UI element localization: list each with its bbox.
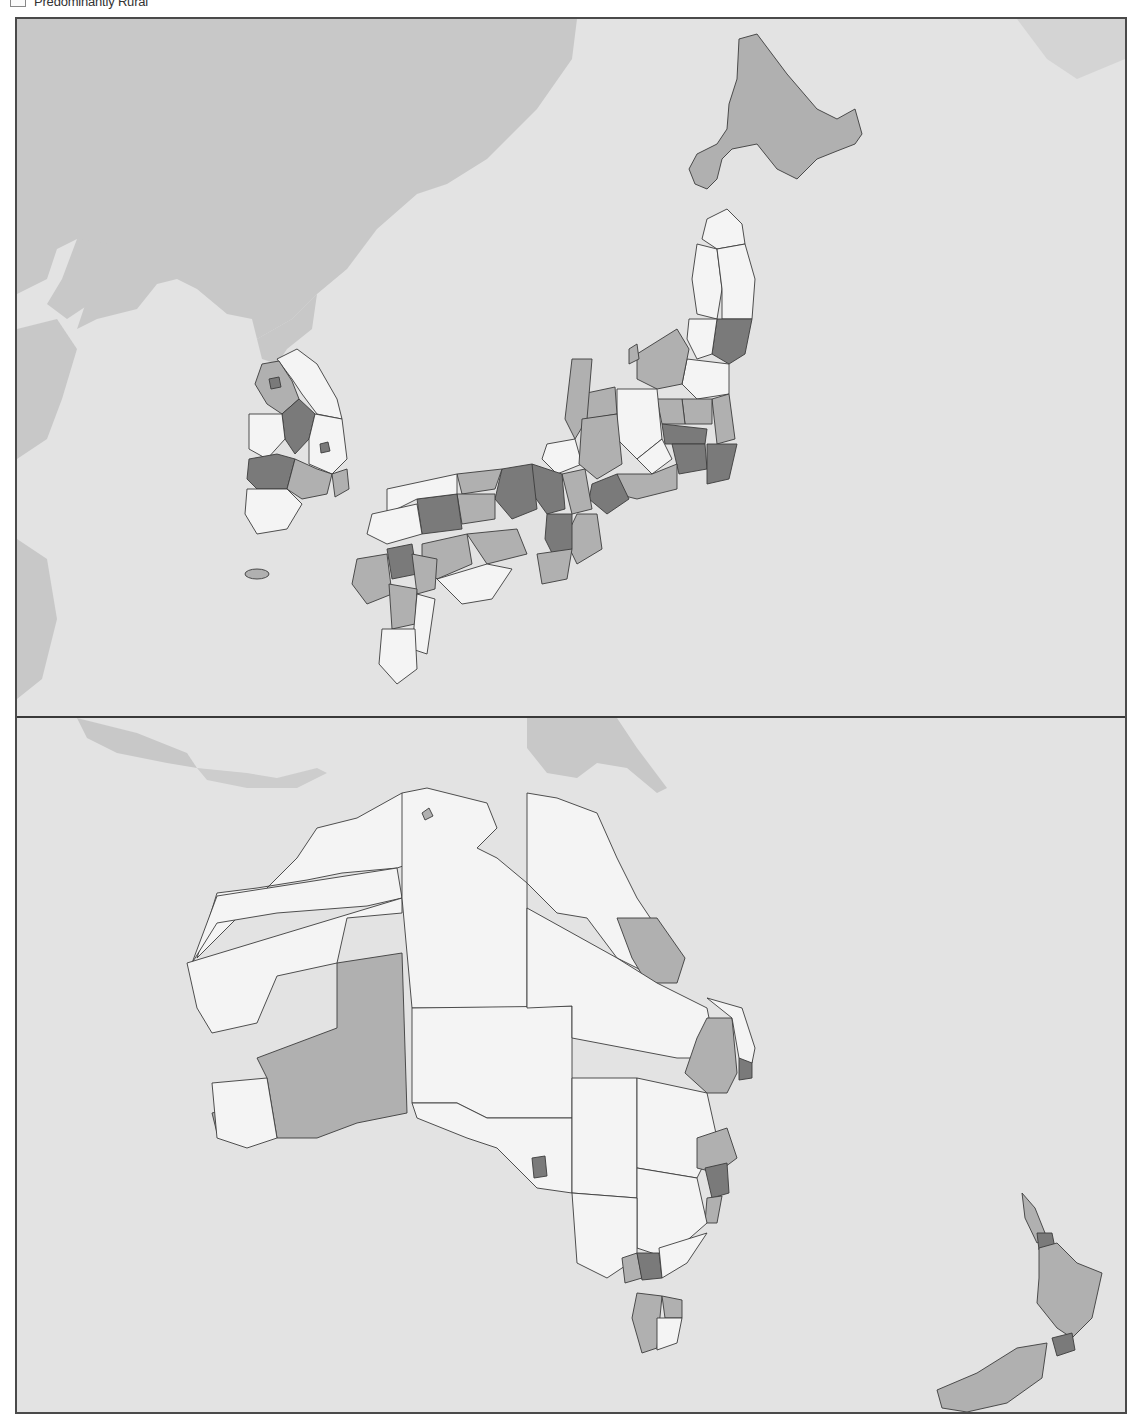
legend: Predominantly Rural bbox=[10, 0, 148, 10]
kr-seoul bbox=[269, 377, 281, 389]
jp-kumamoto bbox=[389, 584, 417, 629]
jp-wakayama bbox=[537, 549, 572, 584]
kr-jeju bbox=[245, 569, 269, 579]
oceania-map bbox=[17, 718, 1125, 1412]
au-wa-southwest bbox=[212, 1078, 277, 1148]
jp-tochigi bbox=[682, 399, 712, 424]
kr-jeonbuk bbox=[247, 454, 295, 489]
jp-gunma bbox=[657, 399, 685, 424]
au-adelaide bbox=[532, 1156, 547, 1178]
map-frame bbox=[15, 17, 1127, 1414]
jp-okayama bbox=[457, 494, 495, 524]
map-panel-north-east-asia bbox=[17, 19, 1125, 716]
kr-daegu bbox=[320, 442, 330, 453]
au-tas-north bbox=[662, 1296, 682, 1318]
au-sa-north bbox=[412, 1006, 572, 1118]
map-panel-oceania bbox=[17, 718, 1125, 1412]
legend-swatch-rural bbox=[10, 0, 26, 7]
north-east-asia-map bbox=[17, 19, 1125, 716]
jp-hiroshima bbox=[417, 494, 462, 534]
au-nsw-west bbox=[572, 1078, 637, 1198]
legend-label-rural: Predominantly Rural bbox=[34, 0, 148, 9]
